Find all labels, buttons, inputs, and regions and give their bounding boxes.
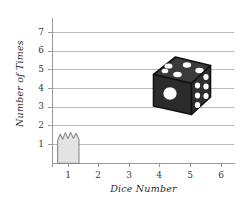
- y-tick-mark-1: [48, 144, 53, 145]
- dice-icon: [144, 55, 218, 129]
- y-tick-mark-7: [48, 32, 53, 33]
- gridline-7: [52, 32, 234, 33]
- y-tick-mark-6: [48, 51, 53, 52]
- x-tick-mark-3: [129, 163, 130, 167]
- y-tick-mark-2: [48, 125, 53, 126]
- gridline-6: [52, 51, 234, 52]
- x-tick-mark-6: [221, 163, 222, 167]
- x-tick-label-2: 2: [89, 170, 107, 180]
- bar-dice-1: [57, 131, 80, 164]
- x-tick-label-4: 4: [150, 170, 168, 180]
- y-axis-title: Number of Times: [14, 29, 25, 139]
- x-axis-title: Dice Number: [52, 183, 235, 194]
- y-tick-mark-5: [48, 69, 53, 70]
- x-tick-mark-2: [98, 163, 99, 167]
- dice-tally-bar-chart: 7 6 5 4 3 2 1 1 2 3 4 5 6 Number of Time…: [0, 0, 245, 203]
- y-tick-mark-3: [48, 107, 53, 108]
- x-tick-label-6: 6: [212, 170, 230, 180]
- y-tick-label-1: 1: [0, 140, 44, 149]
- y-tick-mark-4: [48, 88, 53, 89]
- x-tick-mark-5: [190, 163, 191, 167]
- x-tick-mark-4: [159, 163, 160, 167]
- x-tick-label-5: 5: [181, 170, 199, 180]
- x-tick-label-1: 1: [59, 170, 77, 180]
- x-tick-label-3: 3: [120, 170, 138, 180]
- bar-shape: [57, 131, 80, 164]
- dice-illustration: [144, 55, 218, 125]
